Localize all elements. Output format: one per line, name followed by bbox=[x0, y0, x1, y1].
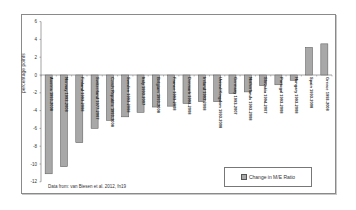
source-note: Data from: van Biesen et al. 2012, fn19 bbox=[48, 184, 126, 189]
y-tick-label: 2 bbox=[34, 55, 37, 60]
category-label: Norway 1993-2008 bbox=[64, 77, 69, 112]
y-tick-label: -4 bbox=[33, 108, 37, 113]
category-label: Denmark 1993-2008 bbox=[187, 77, 192, 115]
category-label: Austria 1993-2008 bbox=[49, 77, 54, 112]
legend-label: Change in M/E Ratio bbox=[249, 174, 295, 180]
category-label: France 1993-2008 bbox=[172, 77, 177, 111]
y-tick-label: 4 bbox=[34, 37, 37, 42]
y-tick-label: -8 bbox=[33, 144, 37, 149]
category-label: Spain 1993-2008 bbox=[309, 77, 314, 109]
bar bbox=[321, 44, 328, 75]
y-tick-label: -6 bbox=[33, 126, 37, 131]
y-tick-label: 0 bbox=[34, 73, 37, 78]
category-label: Finland 1993-2008 bbox=[80, 77, 85, 112]
category-label: United Kingdom 1993-2008 bbox=[218, 77, 223, 129]
legend-swatch-icon bbox=[241, 174, 247, 180]
category-label: Switzerland 1977-2007 bbox=[95, 77, 100, 120]
category-label: Italy 1993-2007 bbox=[141, 77, 146, 106]
category-label: Hungary 1993-2008 bbox=[294, 77, 299, 114]
category-label: Germany 1993-2007 bbox=[233, 77, 238, 115]
category-label: Belgium 1993-2008 bbox=[156, 77, 161, 114]
y-tick-label: -10 bbox=[30, 162, 37, 167]
category-label: Greece 1993-2008 bbox=[325, 77, 330, 112]
category-label: Sweden 1993-2008 bbox=[126, 77, 131, 113]
bar bbox=[306, 47, 313, 75]
category-label: Czech Republic 1993-2008 bbox=[110, 77, 115, 128]
category-label: Ireland 1993-2008 bbox=[202, 77, 207, 111]
y-tick-label: -12 bbox=[30, 179, 37, 184]
category-label: Portugal 1993-2008 bbox=[279, 77, 284, 114]
y-tick-label: 6 bbox=[34, 19, 37, 24]
category-label: Slovakia 1994-2007 bbox=[263, 77, 268, 114]
legend: Change in M/E Ratio bbox=[224, 167, 312, 187]
y-tick-label: -2 bbox=[33, 90, 37, 95]
y-axis-label: percentage points bbox=[20, 53, 26, 93]
category-label: Netherlands 1993-2008 bbox=[248, 77, 253, 121]
